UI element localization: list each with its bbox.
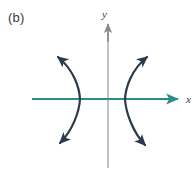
hyperbola-right-branch — [125, 57, 147, 145]
left-branch-upper-arm — [58, 57, 80, 99]
right-branch-upper-arm — [125, 57, 147, 99]
x-axis-label: x — [185, 93, 191, 105]
left-branch-lower-arm — [60, 99, 80, 143]
x-axis: x — [32, 93, 191, 105]
y-axis-label: y — [101, 8, 107, 20]
right-branch-lower-arm — [125, 99, 145, 145]
plot-canvas: y x — [0, 0, 196, 170]
hyperbola-figure: (b) y x — [0, 0, 196, 170]
y-axis: y — [101, 8, 108, 168]
